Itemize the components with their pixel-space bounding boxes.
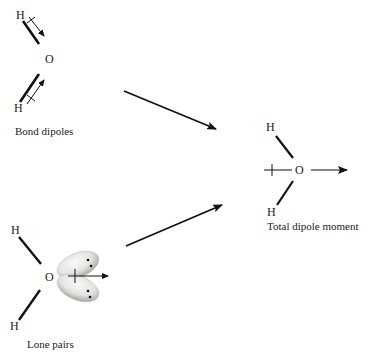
atom-o: O [45,52,54,66]
atom-o: O [45,270,54,284]
caption-lone-pairs: Lone pairs [27,338,74,350]
combine-arrow-from-lone-pairs [126,205,222,246]
atom-h-bottom: H [267,205,276,219]
bond-oh-bottom [277,181,293,205]
electron-dot [90,265,93,268]
bond-oh-bottom [20,74,39,102]
lone-pairs-group: H O H Lone pairs [10,223,108,350]
atom-h-bottom: H [14,101,23,115]
atom-h-top: H [266,120,275,134]
combine-arrow-from-bond-dipoles [124,91,216,129]
total-dipole-group: H O H Total dipole moment [264,120,359,232]
dipole-arrow-bottom [27,80,44,104]
atom-o: O [295,163,304,177]
dipole-diagram: H O H Bond dipoles H O H Total dipole mo… [0,0,367,359]
dipole-cross-bottom [27,95,35,101]
bond-oh-top [276,136,293,158]
electron-dot [89,296,92,299]
electron-dot [87,290,90,293]
caption-bond-dipoles: Bond dipoles [15,125,73,137]
atom-h-bottom: H [10,319,19,333]
caption-total-dipole: Total dipole moment [267,220,359,232]
dipole-cross-top [27,17,35,23]
atom-h-top: H [16,8,25,22]
bond-oh-top [19,237,41,264]
bond-dipoles-group: H O H Bond dipoles [14,8,73,137]
atom-h-top: H [11,223,20,237]
bond-oh-bottom [19,290,40,320]
electron-dot [87,259,90,262]
bond-oh-top [23,21,39,44]
